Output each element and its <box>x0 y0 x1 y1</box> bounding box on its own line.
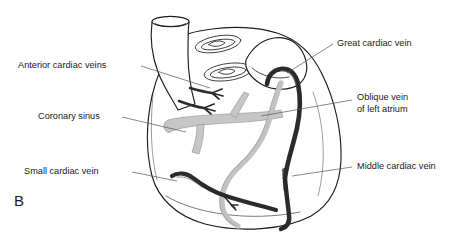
label-oblique-vein-line2: of left atrium <box>357 104 408 114</box>
anatomical-figure-panel-b: Anterior cardiac veins Coronary sinus Sm… <box>0 0 462 240</box>
heart-venous-drainage-illustration: Anterior cardiac veins Coronary sinus Sm… <box>0 0 462 240</box>
label-middle-cardiac-vein: Middle cardiac vein <box>357 161 436 171</box>
label-small-cardiac-vein: Small cardiac vein <box>24 166 99 176</box>
label-oblique-vein-line1: Oblique vein <box>357 92 408 102</box>
label-anterior-cardiac-veins: Anterior cardiac veins <box>18 60 107 70</box>
middle-cardiac-vein-stipple <box>284 170 286 190</box>
label-coronary-sinus: Coronary sinus <box>38 111 100 121</box>
label-great-cardiac-vein: Great cardiac vein <box>337 38 412 48</box>
panel-letter: B <box>14 192 24 209</box>
